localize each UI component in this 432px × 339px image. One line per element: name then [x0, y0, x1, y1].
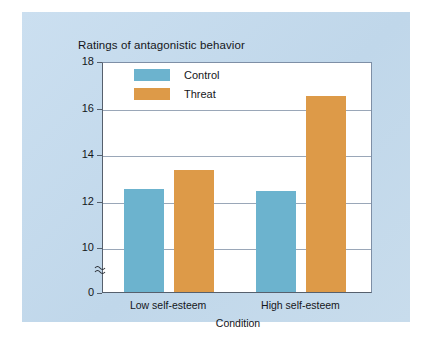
bar-control-low [124, 189, 164, 292]
y-tick-label-10: 10 [64, 241, 94, 253]
bar-threat-low [174, 170, 214, 292]
y-tick-label-16: 16 [64, 102, 94, 114]
y-tick-label-12: 12 [64, 195, 94, 207]
legend: Control Threat [134, 69, 219, 107]
legend-label-threat: Threat [184, 88, 216, 100]
legend-item-threat: Threat [134, 88, 219, 100]
bar-threat-high [306, 96, 346, 292]
y-tick-label-0: 0 [64, 286, 94, 298]
legend-swatch-control-icon [134, 69, 170, 81]
legend-swatch-threat-icon [134, 88, 170, 100]
y-tick-label-18: 18 [64, 55, 94, 67]
legend-label-control: Control [184, 69, 219, 81]
figure: Ratings of antagonistic behavior 0101214… [0, 0, 432, 339]
y-tick-label-14: 14 [64, 148, 94, 160]
legend-item-control: Control [134, 69, 219, 81]
y-tick-mark-12 [97, 202, 102, 203]
chart-panel: Ratings of antagonistic behavior 0101214… [22, 12, 410, 322]
page-title: Ratings of antagonistic behavior [78, 39, 245, 51]
y-tick-mark-16 [97, 109, 102, 110]
y-tick-mark-0 [97, 293, 102, 294]
axis-break-icon [92, 263, 108, 279]
y-tick-mark-14 [97, 155, 102, 156]
y-tick-mark-18 [97, 62, 102, 63]
y-tick-mark-10 [97, 248, 102, 249]
x-axis-title: Condition [22, 317, 432, 329]
bar-control-high [256, 191, 296, 292]
x-tick-label-low-self-esteem: Low self-esteem [108, 299, 228, 311]
x-tick-label-high-self-esteem: High self-esteem [240, 299, 360, 311]
